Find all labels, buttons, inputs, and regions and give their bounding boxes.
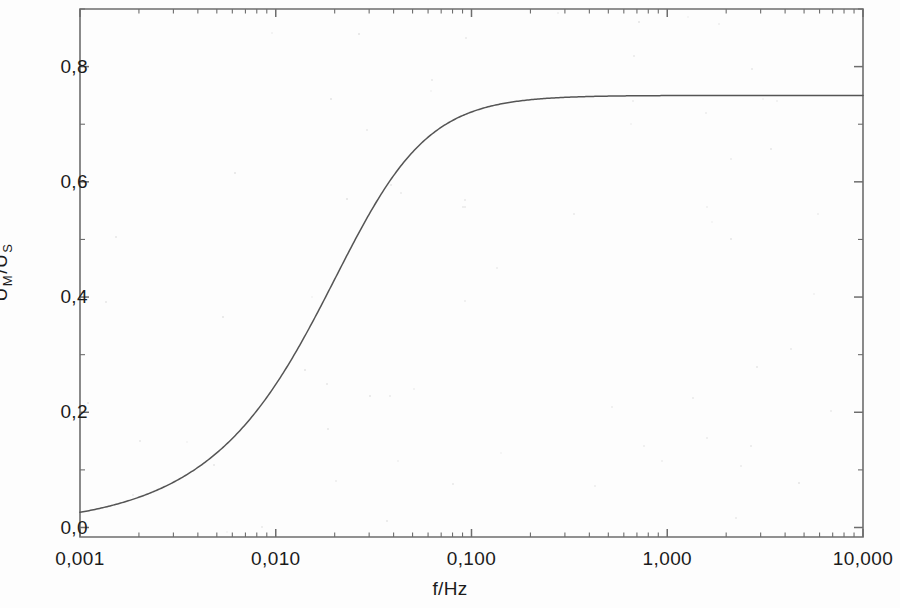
y-axis-title: UM/US (0, 182, 14, 362)
y-tick-label: 0,0 (60, 517, 88, 539)
y-axis-title-sub-s: S (0, 243, 14, 254)
plot-canvas (0, 0, 900, 608)
y-axis-title-separator: /U (0, 254, 11, 274)
y-tick-label: 0,6 (60, 171, 88, 193)
x-tick-label: 0,100 (447, 548, 497, 570)
y-tick-label: 0,4 (60, 286, 88, 308)
x-tick-label: 0,001 (55, 548, 105, 570)
y-axis-title-sub-m: M (0, 274, 14, 287)
chart-figure: 0,0010,0100,1001,00010,000 0,00,20,40,60… (0, 0, 900, 608)
x-tick-label: 0,010 (251, 548, 301, 570)
series-line-0 (80, 95, 863, 512)
x-axis-title: f/Hz (0, 578, 900, 600)
x-tick-label: 1,000 (643, 548, 693, 570)
y-axis-ticks (80, 9, 863, 527)
plot-frame (80, 9, 863, 537)
axes-frame (80, 9, 863, 537)
y-tick-label: 0,8 (60, 56, 88, 78)
x-tick-label: 10,000 (833, 548, 894, 570)
y-tick-label: 0,2 (60, 401, 88, 423)
y-axis-title-base: U (0, 287, 11, 301)
data-series-group (80, 95, 863, 512)
x-axis-ticks (80, 9, 863, 537)
